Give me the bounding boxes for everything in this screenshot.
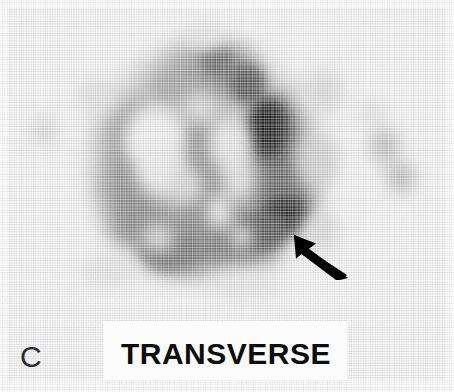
panel-letter: C xyxy=(20,341,42,373)
view-label: TRANSVERSE xyxy=(106,338,346,370)
lesion-arrow-icon xyxy=(286,226,350,280)
scintigram-figure: TRANSVERSE C xyxy=(0,0,454,392)
